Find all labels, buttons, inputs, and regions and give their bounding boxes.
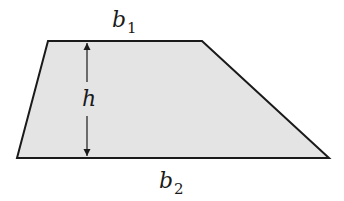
top-base-label-main: b <box>112 7 126 32</box>
bottom-base-label-main: b <box>159 168 173 193</box>
bottom-base-label-subscript: 2 <box>174 180 184 198</box>
height-label: h <box>81 88 97 110</box>
bottom-base-label: b2 <box>159 170 184 192</box>
top-base-label-subscript: 1 <box>127 19 137 37</box>
top-base-label: b1 <box>112 9 137 31</box>
trapezoid-diagram: b1 h b2 <box>0 0 344 201</box>
trapezoid-shape <box>17 41 329 158</box>
